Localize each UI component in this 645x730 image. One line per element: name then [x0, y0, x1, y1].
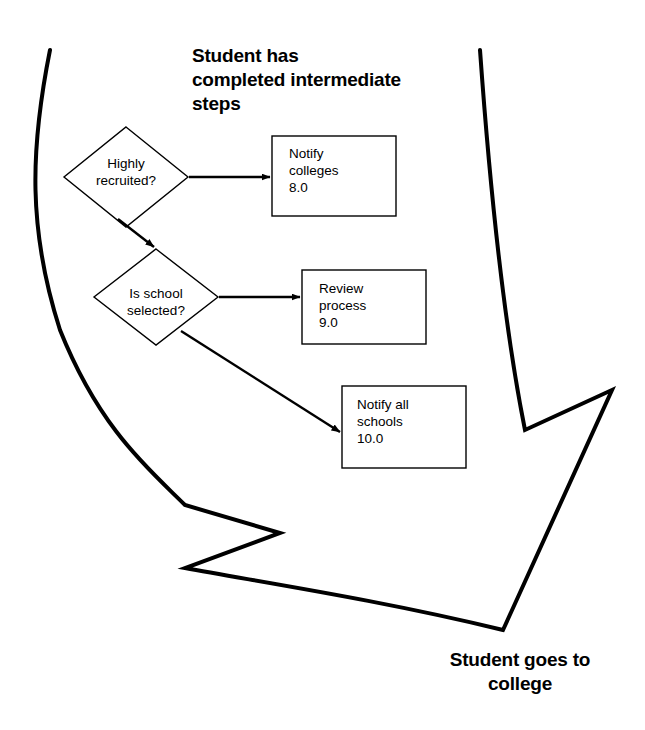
- page-title-top: Student has completed intermediate steps: [192, 44, 462, 116]
- process-notify-colleges-label: Notify colleges 8.0: [289, 145, 393, 196]
- decision-is-school-selected-label: Is school selected?: [104, 285, 208, 319]
- decision-highly-recruited-label: Highly recruited?: [74, 155, 178, 189]
- page-title-bottom: Student goes to college: [395, 648, 645, 696]
- diagram-canvas: Student has completed intermediate steps…: [0, 0, 645, 730]
- process-notify-all-schools-label: Notify all schools 10.0: [357, 396, 461, 447]
- edge-school-selected-to-notify-all: [181, 331, 340, 432]
- edge-recruited-to-school-selected: [118, 219, 154, 247]
- process-review-process-label: Review process 9.0: [319, 280, 423, 331]
